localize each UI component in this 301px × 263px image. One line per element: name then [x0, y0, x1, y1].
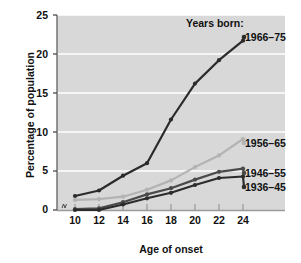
data-point [193, 82, 197, 86]
series-label-1946-55: 1946–55 [245, 167, 286, 179]
data-point [217, 153, 221, 157]
data-point [121, 195, 125, 199]
data-point [169, 178, 173, 182]
data-point [145, 196, 149, 200]
series-label-1966-75: 1966–75 [245, 31, 286, 43]
data-point [97, 188, 101, 192]
x-tick-label-14: 14 [110, 214, 136, 226]
data-point [145, 188, 149, 192]
x-tick-label-18: 18 [158, 214, 184, 226]
series-label-1936-45: 1936–45 [245, 181, 286, 193]
data-point [217, 176, 221, 180]
data-point [97, 208, 101, 212]
data-point [169, 186, 173, 190]
data-point [73, 194, 77, 198]
data-point [217, 58, 221, 62]
x-axis-title: Age of onset [57, 243, 285, 255]
data-point [73, 208, 77, 212]
x-tick-label-12: 12 [86, 214, 112, 226]
data-point [121, 174, 125, 178]
x-tick-label-24: 24 [230, 214, 256, 226]
y-tick-label-0: 0 [22, 203, 48, 215]
data-point [169, 191, 173, 195]
y-axis-title: Percentage of population [24, 35, 36, 195]
data-point [73, 198, 77, 202]
data-point [145, 192, 149, 196]
x-tick-label-20: 20 [182, 214, 208, 226]
data-point [169, 117, 173, 121]
legend-title: Years born: [186, 17, 244, 29]
data-point [145, 161, 149, 165]
x-tick-label-16: 16 [134, 214, 160, 226]
data-point [97, 197, 101, 201]
data-point [193, 165, 197, 169]
data-point [217, 170, 221, 174]
x-tick-label-22: 22 [206, 214, 232, 226]
chart-container: 0 5 10 15 20 25 10 12 14 16 18 20 22 24 … [0, 0, 301, 263]
data-point [193, 178, 197, 182]
y-tick-label-25: 25 [22, 9, 48, 21]
data-point [193, 183, 197, 187]
x-tick-label-10: 10 [62, 214, 88, 226]
series-label-1956-65: 1956–65 [245, 137, 286, 149]
data-point [121, 202, 125, 206]
